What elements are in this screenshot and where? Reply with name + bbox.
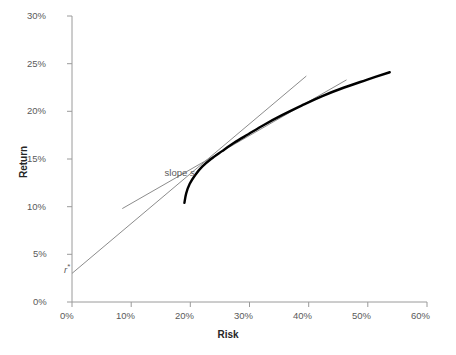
y-axis-ticks xyxy=(67,16,72,302)
y-tick-label-5: 5% xyxy=(33,248,47,259)
x-tick-label-30: 30% xyxy=(234,310,253,321)
y-tick-label-15: 15% xyxy=(27,153,46,164)
x-tick-label-0: 0% xyxy=(60,310,74,321)
x-tick-label-60: 60% xyxy=(411,310,430,321)
y-tick-label-10: 10% xyxy=(27,201,46,212)
slope-annotation: slope s xyxy=(165,167,195,178)
y-tick-label-25: 25% xyxy=(27,58,46,69)
risk-free-rate-annotation: r* xyxy=(64,262,70,275)
chart-plot-svg xyxy=(0,0,456,355)
x-axis-ticks xyxy=(72,302,427,307)
y-tick-label-20: 20% xyxy=(27,105,46,116)
x-tick-label-40: 40% xyxy=(293,310,312,321)
slope-annotation-prefix: slope xyxy=(165,167,190,178)
x-axis-title: Risk xyxy=(0,329,456,340)
risk-free-rate-superscript: * xyxy=(67,262,70,271)
x-tick-label-10: 10% xyxy=(116,310,135,321)
x-tick-label-50: 50% xyxy=(352,310,371,321)
y-tick-label-0: 0% xyxy=(33,296,47,307)
x-tick-label-20: 20% xyxy=(175,310,194,321)
slope-annotation-symbol: s xyxy=(190,167,195,178)
y-axis-title: Return xyxy=(18,146,29,178)
y-tick-label-30: 30% xyxy=(27,10,46,21)
chart-canvas: 30% 25% 20% 15% 10% 5% 0% 0% 10% 20% 30%… xyxy=(0,0,456,355)
